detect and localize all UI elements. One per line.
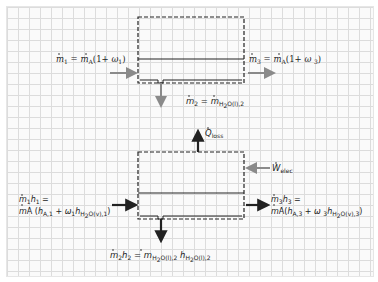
overdot-marks <box>0 0 378 282</box>
